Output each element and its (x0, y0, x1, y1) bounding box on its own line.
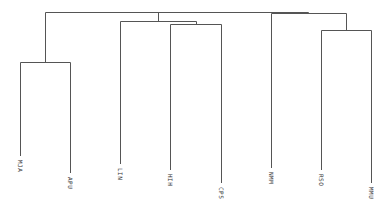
leaf-label-apu: APU (67, 177, 74, 189)
leaf-label-cps: CPS (218, 187, 225, 199)
dendrogram (0, 0, 391, 217)
branch-rso-mmu (322, 31, 372, 184)
branch-lin-hihcps (121, 22, 197, 165)
leaf-label-hih: HIH (167, 174, 174, 186)
leaf-label-rso: RSO (318, 174, 325, 186)
leaf-label-nmm: NMM (268, 172, 275, 184)
branch-nmm-rsommu (272, 14, 347, 169)
leaf-label-mmu: MMU (368, 187, 375, 199)
leaf-label-mja: MJA (17, 160, 24, 172)
branch-mja-apu (21, 63, 71, 174)
branch-hih-cps (171, 25, 222, 184)
branch-root (46, 13, 309, 63)
leaf-label-lin: LIN (117, 168, 124, 180)
